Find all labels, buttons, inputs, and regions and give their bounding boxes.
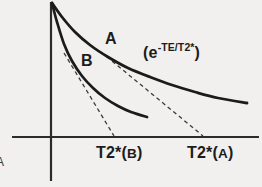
t2a-prefix: T2*( — [187, 144, 218, 161]
decay-formula: (e-TE/T2*) — [143, 45, 200, 61]
t2a-letter: A — [218, 146, 228, 161]
t2b-suffix: ) — [137, 144, 143, 161]
formula-open: (e — [143, 44, 158, 61]
t2a-suffix: ) — [228, 144, 234, 161]
tangent-line-a — [101, 52, 203, 136]
figure-canvas: A B (e-TE/T2*) T2*(B) T2*(A) A — [0, 0, 262, 187]
formula-close: ) — [195, 44, 201, 61]
formula-exponent: -TE/T2* — [158, 41, 195, 53]
t2b-letter: B — [127, 146, 137, 161]
curve-label-a: A — [105, 31, 117, 47]
x-axis-label-t2-b: T2*(B) — [96, 145, 143, 161]
panel-letter: A — [0, 156, 4, 168]
x-axis-label-t2-a: T2*(A) — [187, 145, 234, 161]
curve-label-b: B — [81, 53, 93, 69]
t2b-prefix: T2*( — [96, 144, 127, 161]
